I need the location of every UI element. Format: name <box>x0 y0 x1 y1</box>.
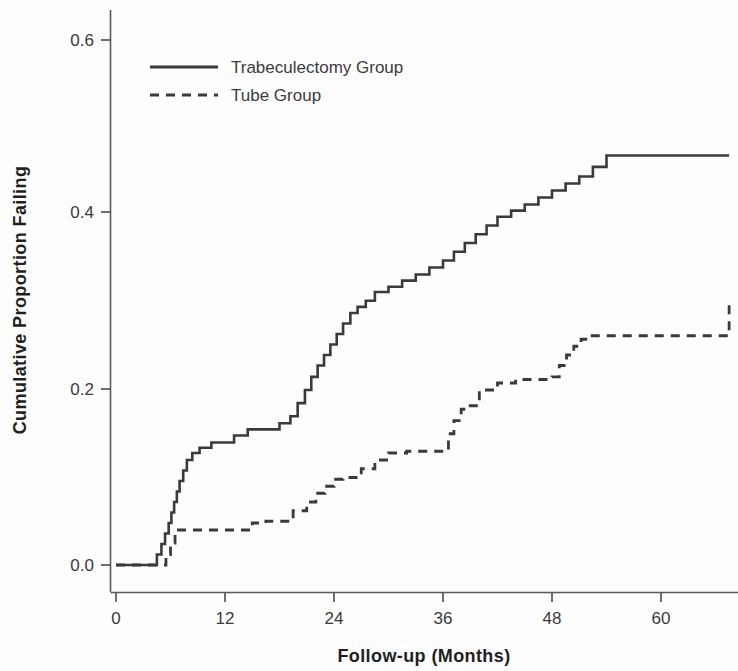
x-tick-label: 48 <box>543 609 562 628</box>
y-tick-0.6: 0.6 <box>70 31 110 50</box>
x-tick-label: 24 <box>325 609 344 628</box>
series-group <box>116 156 729 566</box>
x-tick-0: 0 <box>111 593 120 628</box>
series-tube-line <box>116 303 729 566</box>
y-axis-ticks: 0.6 0.4 0.2 0.0 <box>70 31 110 575</box>
y-tick-label: 0.4 <box>70 203 94 222</box>
x-tick-label: 0 <box>111 609 120 628</box>
chart-legend: Trabeculectomy Group Tube Group <box>150 58 403 105</box>
legend-label-tube: Tube Group <box>231 86 321 105</box>
y-axis-title: Cumulative Proportion Failing <box>10 166 30 435</box>
y-tick-0.0: 0.0 <box>70 556 110 575</box>
kaplan-meier-chart-figure: 0.6 0.4 0.2 0.0 0 12 <box>0 0 738 671</box>
y-tick-label: 0.6 <box>70 31 94 50</box>
x-tick-24: 24 <box>325 593 344 628</box>
x-tick-48: 48 <box>543 593 562 628</box>
series-trabeculectomy-line <box>116 156 729 566</box>
y-tick-label: 0.2 <box>70 380 94 399</box>
axes-group <box>111 10 738 593</box>
x-tick-36: 36 <box>434 593 453 628</box>
y-tick-0.4: 0.4 <box>70 203 110 222</box>
x-tick-label: 36 <box>434 609 453 628</box>
x-tick-12: 12 <box>216 593 235 628</box>
legend-label-trabeculectomy: Trabeculectomy Group <box>231 58 403 77</box>
x-axis-ticks: 0 12 24 36 48 60 <box>111 593 670 628</box>
y-tick-0.2: 0.2 <box>70 380 110 399</box>
y-tick-label: 0.0 <box>70 556 94 575</box>
chart-canvas: 0.6 0.4 0.2 0.0 0 12 <box>0 0 738 671</box>
x-tick-60: 60 <box>652 593 671 628</box>
x-tick-label: 12 <box>216 609 235 628</box>
x-tick-label: 60 <box>652 609 671 628</box>
x-axis-title: Follow-up (Months) <box>337 646 510 666</box>
